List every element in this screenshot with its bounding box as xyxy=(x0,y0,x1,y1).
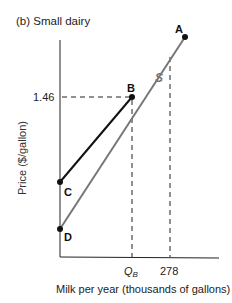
point-c-marker xyxy=(57,179,63,185)
y-tick-1-46: 1.46 xyxy=(33,91,54,103)
point-b-marker xyxy=(129,94,135,100)
point-d-marker xyxy=(57,226,63,232)
x-tick-278: 278 xyxy=(160,265,178,277)
point-a-label: A xyxy=(175,23,183,35)
x-tick-qb: QB xyxy=(124,265,139,279)
line-cb xyxy=(60,97,132,182)
point-b-label: B xyxy=(127,82,135,94)
supply-curve-s xyxy=(60,37,185,229)
x-axis xyxy=(60,257,219,258)
point-c-label: C xyxy=(64,186,72,198)
chart-plot: A B C D S 1.46 QB 278 xyxy=(0,0,232,303)
point-d-label: D xyxy=(64,231,72,243)
curve-s-label: S xyxy=(155,71,163,85)
